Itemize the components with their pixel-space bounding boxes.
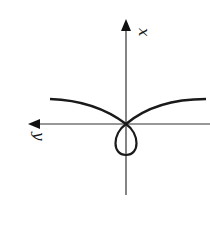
curve-right-arm	[126, 99, 206, 124]
horizontal-axis-label: y	[30, 131, 48, 141]
diagram-canvas: x y	[0, 0, 210, 240]
horizontal-axis-arrowhead	[28, 119, 40, 129]
vertical-axis-arrowhead	[121, 19, 131, 31]
curve-left-arm	[50, 99, 126, 124]
vertical-axis-label: x	[135, 28, 153, 37]
